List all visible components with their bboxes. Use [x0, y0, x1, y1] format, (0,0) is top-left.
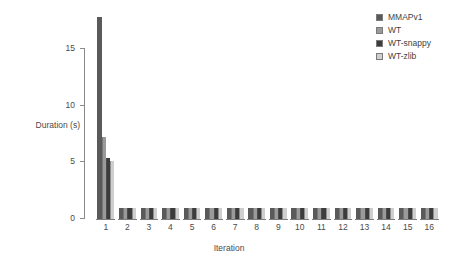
bar	[132, 208, 136, 219]
legend-item: MMAPv1	[376, 11, 431, 24]
legend-item: WT-zlib	[376, 50, 431, 63]
group-baseline	[118, 219, 137, 220]
bar	[326, 208, 330, 219]
bar-group	[270, 8, 287, 219]
bar-group	[227, 8, 244, 219]
bar-group	[97, 8, 114, 219]
y-tick-label: 0	[53, 214, 75, 223]
group-baseline	[96, 219, 115, 220]
y-tick-label: 5	[53, 157, 75, 166]
x-tick-label: 10	[290, 222, 310, 232]
x-tick-label: 4	[160, 222, 180, 232]
bar	[433, 208, 437, 219]
bar	[218, 208, 222, 219]
bar-group	[184, 8, 201, 219]
x-tick-label: 2	[117, 222, 137, 232]
bar	[412, 208, 416, 219]
y-axis-title: Duration (s)	[8, 120, 80, 131]
group-baseline	[226, 219, 245, 220]
legend-label: WT-snappy	[388, 39, 431, 48]
group-baseline	[269, 219, 288, 220]
legend-swatch-icon	[376, 27, 383, 34]
group-baseline	[140, 219, 159, 220]
chart-legend: MMAPv1WTWT-snappyWT-zlib	[376, 11, 431, 63]
bar	[282, 208, 286, 219]
bar-group	[313, 8, 330, 219]
bar-group	[248, 8, 265, 219]
bar	[153, 208, 157, 219]
y-tick-mark	[80, 48, 84, 49]
bar	[261, 208, 265, 219]
y-tick-mark	[80, 105, 84, 106]
x-tick-label: 16	[419, 222, 439, 232]
group-baseline	[398, 219, 417, 220]
bar	[390, 208, 394, 219]
bar-group	[141, 8, 158, 219]
bar	[347, 208, 351, 219]
x-tick-label: 7	[225, 222, 245, 232]
bar	[175, 208, 179, 219]
x-tick-label: 9	[268, 222, 288, 232]
y-tick-label: 10	[53, 101, 75, 110]
legend-label: WT	[388, 26, 401, 35]
y-axis-spine	[84, 48, 85, 219]
legend-item: WT	[376, 24, 431, 37]
bar	[304, 208, 308, 219]
bar-group	[335, 8, 352, 219]
x-tick-label: 14	[376, 222, 396, 232]
x-tick-label: 11	[311, 222, 331, 232]
legend-item: WT-snappy	[376, 37, 431, 50]
group-baseline	[377, 219, 396, 220]
group-baseline	[290, 219, 309, 220]
bar	[110, 161, 114, 219]
group-baseline	[161, 219, 180, 220]
x-tick-label: 8	[247, 222, 267, 232]
x-tick-label: 5	[182, 222, 202, 232]
legend-label: MMAPv1	[388, 13, 422, 22]
bar	[196, 208, 200, 219]
x-tick-label: 3	[139, 222, 159, 232]
x-tick-label: 13	[355, 222, 375, 232]
x-tick-label: 12	[333, 222, 353, 232]
legend-swatch-icon	[376, 53, 383, 60]
bar-chart: Duration (s) 051015 12345678910111213141…	[0, 0, 458, 266]
x-tick-label: 6	[204, 222, 224, 232]
bar-group	[356, 8, 373, 219]
group-baseline	[247, 219, 266, 220]
legend-swatch-icon	[376, 14, 383, 21]
y-tick-mark	[80, 218, 84, 219]
x-tick-label: 1	[96, 222, 116, 232]
group-baseline	[183, 219, 202, 220]
group-baseline	[355, 219, 374, 220]
bar-group	[291, 8, 308, 219]
y-tick-mark	[80, 161, 84, 162]
x-axis-title: Iteration	[0, 243, 458, 253]
x-tick-label: 15	[398, 222, 418, 232]
legend-swatch-icon	[376, 40, 383, 47]
group-baseline	[334, 219, 353, 220]
group-baseline	[312, 219, 331, 220]
bar-group	[205, 8, 222, 219]
bar-group	[162, 8, 179, 219]
group-baseline	[204, 219, 223, 220]
legend-label: WT-zlib	[388, 52, 416, 61]
bar	[369, 208, 373, 219]
y-tick-label: 15	[53, 44, 75, 53]
bar-group	[119, 8, 136, 219]
bar	[239, 208, 243, 219]
group-baseline	[420, 219, 439, 220]
